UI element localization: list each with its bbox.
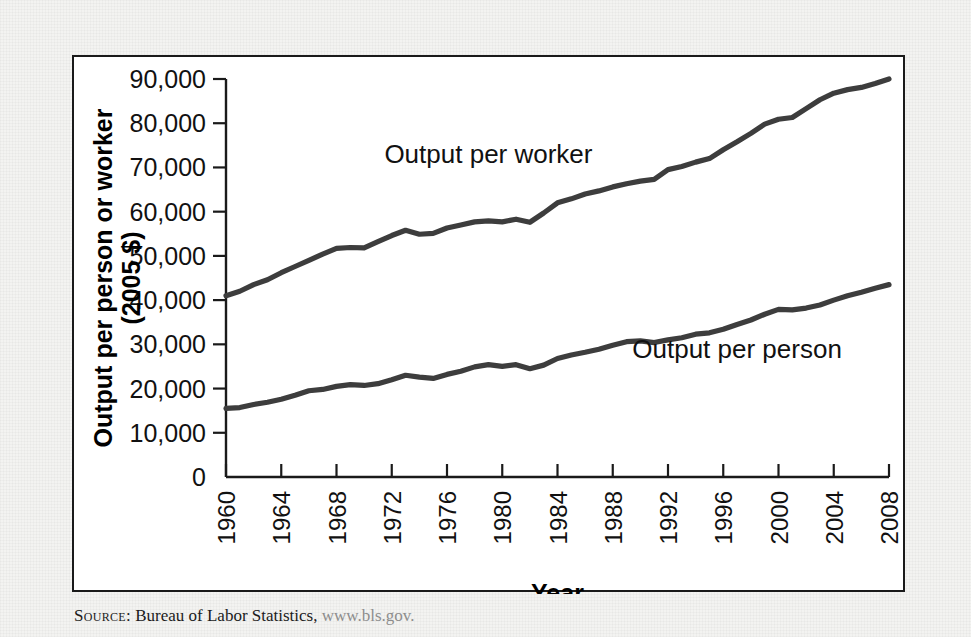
x-tick-label: 1972 [379,491,406,544]
y-tick-label: 80,000 [130,109,206,137]
series-line-output-per-worker [226,79,889,296]
x-tick-label: 1976 [434,491,461,544]
x-axis-title: Year [531,579,584,594]
source-text: Bureau of Labor Statistics, [135,606,317,625]
y-tick-label: 30,000 [130,330,206,358]
x-tick-label: 1988 [600,491,627,544]
y-axis-title-line2: (2005 $) [117,231,145,324]
x-tick-label: 1968 [324,491,351,544]
series-annotation-output-per-worker: Output per worker [384,139,592,169]
y-tick-label: 10,000 [130,419,206,447]
source-label: Source: [74,606,131,625]
x-tick-label: 2008 [876,491,903,544]
x-tick-label: 2000 [766,491,793,544]
y-tick-label: 0 [192,463,206,491]
line-chart: 010,00020,00030,00040,00050,00060,00070,… [74,57,907,594]
x-tick-label: 1980 [489,491,516,544]
x-tick-label: 1992 [655,491,682,544]
series-annotation-output-per-person: Output per person [632,334,842,364]
y-tick-label: 90,000 [130,65,206,93]
x-tick-label: 1996 [710,491,737,544]
y-tick-label: 60,000 [130,198,206,226]
y-tick-label: 70,000 [130,153,206,181]
y-tick-label: 20,000 [130,375,206,403]
x-tick-label: 2004 [821,491,848,544]
source-note: Source: Bureau of Labor Statistics, www.… [74,606,414,626]
source-url: www.bls.gov. [322,606,415,625]
x-tick-label: 1984 [545,491,572,544]
y-axis-title-line1: Output per person or worker [89,108,117,447]
x-tick-label: 1960 [213,491,240,544]
x-tick-label: 1964 [268,491,295,544]
figure-frame: 010,00020,00030,00040,00050,00060,00070,… [72,55,905,592]
